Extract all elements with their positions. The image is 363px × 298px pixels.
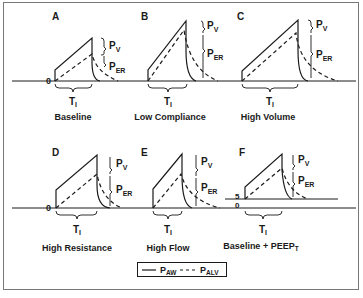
brace-ti [148, 84, 187, 92]
palv-curve [56, 174, 122, 208]
legend: PAW PALV [138, 263, 227, 277]
per-label: PER [207, 48, 223, 61]
panel-caption: High Flow [147, 243, 191, 253]
per-label: PER [298, 175, 314, 188]
panel-caption: Baseline [54, 112, 91, 122]
panel-caption: Low Compliance [134, 112, 206, 122]
panel-e: E PV PER TI High Flow [141, 147, 220, 253]
panel-letter: D [52, 147, 59, 158]
peep-value-label: 5 [235, 192, 240, 201]
paw-curve [56, 155, 110, 208]
panel-caption: High Volume [241, 112, 295, 122]
panel-b: B PV PER TI Low Compliance [134, 11, 223, 122]
ti-label: TI [164, 224, 172, 236]
ti-label: TI [73, 224, 81, 236]
ventilator-pressure-diagram: A 0 PV PER TI Baseline B PV PER TI Low C… [0, 0, 363, 298]
pv-label: PV [316, 19, 328, 32]
paw-curve [153, 154, 192, 208]
panel-caption: High Resistance [42, 243, 112, 253]
panel-letter: E [141, 147, 148, 158]
brace-pv [201, 21, 205, 33]
brace-ti [242, 84, 298, 92]
brace-ti [56, 211, 97, 219]
paw-curve [242, 20, 308, 81]
ti-label: TI [164, 96, 172, 108]
zero-label: 0 [235, 201, 240, 210]
ti-label: TI [69, 96, 77, 108]
per-label: PER [201, 182, 217, 195]
per-label: PER [109, 61, 125, 74]
panel-d: D 0 PV PER TI High Resistance [42, 147, 132, 253]
brace-per [311, 35, 313, 78]
panel-letter: B [141, 11, 148, 22]
brace-ti [55, 84, 92, 92]
brace-pv [196, 155, 198, 176]
pv-label: PV [298, 154, 310, 167]
zero-label: 0 [46, 76, 51, 86]
panel-a: A 0 PV PER TI Baseline [46, 11, 125, 122]
per-label: PER [316, 49, 332, 62]
brace-pv [101, 38, 106, 55]
panel-letter: C [237, 11, 244, 22]
panel-f: F 5 0 PV PER TI Baseline + PEEPT [223, 147, 338, 252]
brace-ti [245, 211, 282, 219]
panel-letter: F [239, 147, 245, 158]
panel-caption: Baseline + PEEPT [223, 241, 298, 252]
brace-per [293, 172, 295, 197]
ti-label: TI [259, 224, 267, 236]
brace-per [203, 35, 205, 78]
zero-label: 0 [46, 203, 51, 213]
paw-curve [148, 21, 196, 81]
pv-label: PV [116, 158, 128, 171]
brace-per [196, 178, 198, 206]
brace-pv [308, 20, 313, 33]
brace-pv [293, 155, 295, 170]
panel-letter: A [52, 11, 59, 22]
pv-label: PV [207, 20, 219, 33]
per-label: PER [116, 184, 132, 197]
panel-c: C PV PER TI High Volume [237, 11, 338, 122]
pv-label: PV [201, 156, 213, 169]
brace-pv [110, 157, 112, 174]
brace-ti [153, 211, 182, 219]
ti-label: TI [266, 96, 274, 108]
pv-label: PV [109, 40, 121, 53]
brace-per [104, 56, 106, 67]
